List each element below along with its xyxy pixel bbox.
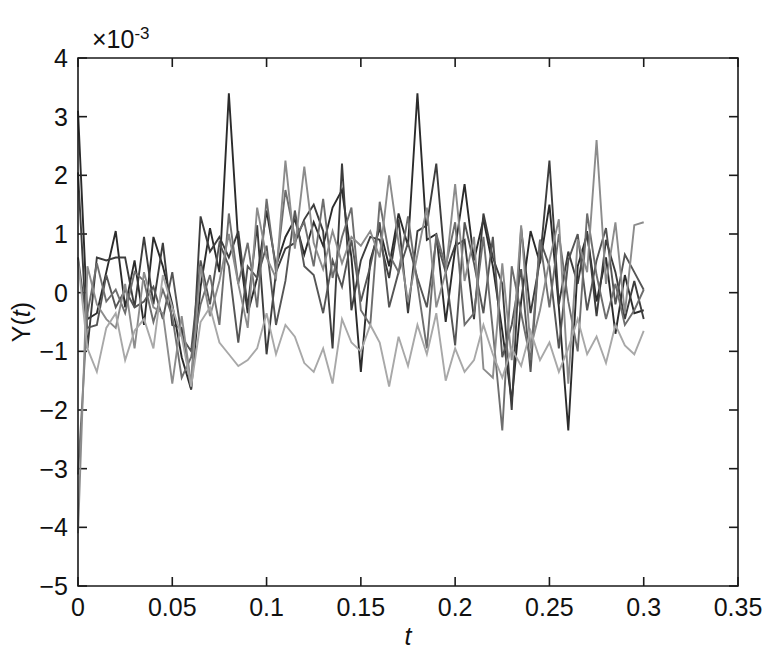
y-tick-label-0: −5 <box>39 572 68 600</box>
x-tick-label-7: 0.35 <box>714 593 763 621</box>
multiplier-base: ×10 <box>92 25 134 53</box>
x-tick-label-6: 0.3 <box>626 593 661 621</box>
y-tick-label-2: −3 <box>39 455 68 483</box>
y-tick-label-6: 1 <box>54 220 68 248</box>
y-tick-label-8: 3 <box>54 103 68 131</box>
y-axis-label-text: Y( <box>7 316 35 342</box>
series-line-5 <box>78 140 644 533</box>
y-tick-labels: −5−4−3−2−101234 <box>39 44 68 600</box>
y-axis-label-paren: ) <box>7 302 35 310</box>
x-tick-label-5: 0.25 <box>525 593 574 621</box>
x-tick-labels: 00.050.10.150.20.250.30.35 <box>71 593 762 621</box>
y-tick-label-7: 2 <box>54 161 68 189</box>
x-tick-label-1: 0.05 <box>148 593 197 621</box>
y-tick-label-9: 4 <box>54 44 68 72</box>
y-tick-label-4: −1 <box>39 337 68 365</box>
x-tick-label-4: 0.2 <box>438 593 473 621</box>
multiplier-exponent: -3 <box>134 24 149 43</box>
y-tick-label-5: 0 <box>54 279 68 307</box>
x-tick-label-3: 0.15 <box>337 593 386 621</box>
x-tick-label-0: 0 <box>71 593 85 621</box>
y-tick-label-1: −4 <box>39 513 68 541</box>
y-axis-label: Y(t) <box>7 302 35 342</box>
y-tick-label-3: −2 <box>39 396 68 424</box>
figure-container: 00.050.10.150.20.250.30.35 −5−4−3−2−1012… <box>0 0 783 665</box>
chart-canvas: 00.050.10.150.20.250.30.35 −5−4−3−2−1012… <box>0 0 783 665</box>
x-tick-label-2: 0.1 <box>249 593 284 621</box>
data-series-group <box>78 93 644 533</box>
x-axis-label: t <box>405 622 413 650</box>
axis-multiplier-label: ×10-3 <box>92 24 150 53</box>
